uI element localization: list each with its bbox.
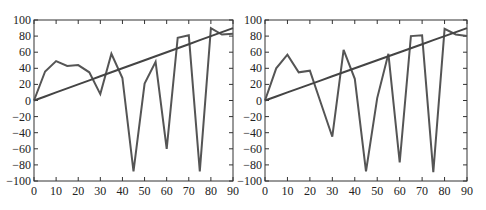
y-tick-label: 0 [256, 94, 262, 108]
right-line-chart: 0102030405060708090100806040200−20−40−60… [237, 13, 473, 198]
y-tick-label: −60 [12, 142, 31, 156]
x-tick-label: 30 [94, 184, 106, 198]
y-tick-label: 0 [25, 94, 31, 108]
x-tick-label: 50 [371, 184, 383, 198]
y-tick-label: 60 [250, 45, 262, 59]
y-tick-label: −40 [12, 126, 31, 140]
x-tick-label: 20 [72, 184, 84, 198]
x-tick-label: 70 [416, 184, 428, 198]
y-tick-label: −20 [12, 110, 31, 124]
plot-frame [34, 20, 233, 181]
x-tick-label: 10 [50, 184, 62, 198]
x-tick-label: 0 [262, 184, 268, 198]
y-tick-label: −40 [243, 126, 262, 140]
x-tick-label: 90 [461, 184, 473, 198]
x-tick-label: 60 [161, 184, 173, 198]
y-tick-label: −20 [243, 110, 262, 124]
plot-frame [265, 20, 467, 181]
x-tick-label: 10 [281, 184, 293, 198]
y-tick-label: −80 [12, 158, 31, 172]
y-tick-label: 20 [250, 77, 262, 91]
y-tick-label: −100 [237, 174, 262, 188]
x-tick-label: 30 [326, 184, 338, 198]
left-line-chart: 0102030405060708090100806040200−20−40−60… [6, 13, 239, 198]
y-tick-label: 80 [19, 29, 31, 43]
x-tick-label: 70 [183, 184, 195, 198]
x-tick-label: 20 [304, 184, 316, 198]
y-tick-label: 40 [250, 61, 262, 75]
x-tick-label: 80 [439, 184, 451, 198]
x-tick-label: 40 [349, 184, 361, 198]
signal-line [34, 28, 233, 171]
y-tick-label: 80 [250, 29, 262, 43]
y-tick-label: 60 [19, 45, 31, 59]
trend-line [265, 28, 467, 100]
y-tick-label: −80 [243, 158, 262, 172]
x-tick-label: 80 [205, 184, 217, 198]
x-tick-label: 0 [31, 184, 37, 198]
chart-canvas: 0102030405060708090100806040200−20−40−60… [0, 0, 486, 210]
x-tick-label: 60 [394, 184, 406, 198]
signal-line [265, 29, 467, 172]
y-tick-label: 100 [244, 13, 262, 27]
y-tick-label: −60 [243, 142, 262, 156]
y-tick-label: −100 [6, 174, 31, 188]
x-tick-label: 50 [139, 184, 151, 198]
y-tick-label: 100 [13, 13, 31, 27]
x-tick-label: 40 [116, 184, 128, 198]
y-tick-label: 40 [19, 61, 31, 75]
y-tick-label: 20 [19, 77, 31, 91]
